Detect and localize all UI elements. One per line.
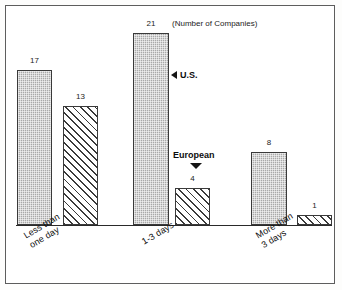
bar-us-1-3-days[interactable] xyxy=(133,33,169,225)
legend-label-us: U.S. xyxy=(180,70,198,80)
european-pointer-arrow-icon xyxy=(190,163,202,169)
bar-label-us-less-than-one-day: 17 xyxy=(17,56,52,65)
unit-annotation: (Number of Companies) xyxy=(172,19,257,28)
legend-label-european: European xyxy=(173,150,215,160)
us-pointer-arrow-icon xyxy=(171,71,177,79)
bar-label-us-1-3-days: 21 xyxy=(133,19,169,28)
bar-us-less-than-one-day[interactable] xyxy=(17,70,52,225)
bar-european-1-3-days[interactable] xyxy=(175,188,210,225)
chart-figure: 17 13 21 (Number of Companies) 4 8 1 U.S… xyxy=(0,0,342,290)
bar-label-european-more-than-3-days: 1 xyxy=(297,201,332,210)
bar-european-less-than-one-day[interactable] xyxy=(63,106,98,225)
bar-label-european-1-3-days: 4 xyxy=(175,174,210,183)
bar-european-more-than-3-days[interactable] xyxy=(297,215,332,225)
bar-label-european-less-than-one-day: 13 xyxy=(63,92,98,101)
bar-label-us-more-than-3-days: 8 xyxy=(251,138,287,147)
plot-area: 17 13 21 (Number of Companies) 4 8 1 U.S… xyxy=(0,0,342,290)
